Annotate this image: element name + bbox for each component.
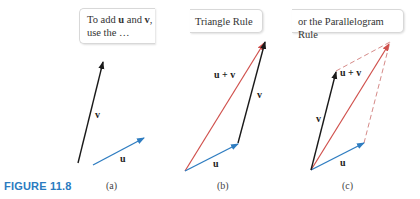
label-v: v [257, 89, 262, 100]
panel-b: u + v v u [185, 42, 265, 171]
dashed-v-translate [364, 42, 390, 143]
label-u: u [213, 158, 219, 169]
caption-c: (c) [342, 180, 353, 191]
caption-b: (b) [217, 180, 229, 191]
panel-c: u + v v u [311, 42, 390, 170]
label-v: v [95, 109, 100, 120]
vector-sum [185, 43, 264, 171]
vector-v [311, 72, 336, 170]
label-u: u [120, 153, 126, 164]
label-u: u [340, 157, 346, 168]
label-sum: u + v [340, 67, 361, 78]
label-sum: u + v [214, 69, 235, 80]
figure-label: FIGURE 11.8 [4, 180, 72, 192]
vector-diagram: v u u + v v u u + v v u [0, 0, 420, 199]
label-v: v [316, 113, 321, 124]
panel-a: v u [78, 62, 144, 165]
vector-sum [311, 44, 389, 170]
vector-u [93, 138, 144, 165]
caption-a: (a) [106, 180, 117, 191]
